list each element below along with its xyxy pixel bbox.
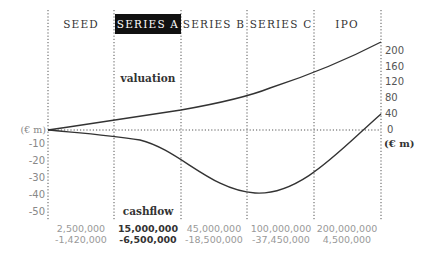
stage-series-c: SERIES C	[250, 18, 313, 30]
stage-series-a: SERIES A	[117, 18, 179, 30]
left-tick-30: -30	[29, 172, 45, 183]
left-tick-10: -10	[29, 138, 45, 149]
left-tick-20: -20	[29, 155, 45, 166]
right-tick-120: 120	[385, 76, 404, 87]
stage-series-b: SERIES B	[183, 18, 245, 30]
left-tick-40: -40	[29, 189, 45, 200]
stage-seed: SEED	[63, 18, 99, 30]
left-tick-50: -50	[29, 206, 45, 217]
valuation-label: valuation	[120, 72, 176, 84]
right-tick-80: 80	[385, 92, 398, 103]
footer-series-b-valuation: 45,000,000	[187, 223, 241, 234]
footer-series-a-valuation: 15,000,000	[118, 223, 178, 234]
footer-series-c-cashflow: -37,450,000	[252, 234, 310, 245]
stage-ipo: IPO	[335, 18, 358, 30]
footer-series-b-cashflow: -18,500,000	[185, 234, 243, 245]
cashflow-label: cashflow	[123, 205, 174, 217]
right-tick-0: 0	[387, 124, 393, 135]
right-axis-unit: (€ m)	[384, 138, 414, 149]
footer-seed-cashflow: -1,420,000	[55, 234, 107, 245]
right-tick-40: 40	[385, 108, 398, 119]
footer-series-a-cashflow: -6,500,000	[119, 234, 177, 245]
footer-ipo-cashflow: 4,500,000	[323, 234, 371, 245]
funding-chart: SEED SERIES A SERIES B SERIES C IPO 200 …	[0, 0, 429, 257]
right-tick-160: 160	[385, 61, 404, 72]
left-axis-unit: (€ m)	[21, 124, 47, 135]
cashflow-line	[48, 114, 381, 193]
valuation-line	[48, 42, 381, 130]
footer-ipo-valuation: 200,000,000	[317, 223, 377, 234]
footer-series-c-valuation: 100,000,000	[251, 223, 311, 234]
right-tick-200: 200	[385, 45, 404, 56]
footer-seed-valuation: 2,500,000	[57, 223, 105, 234]
